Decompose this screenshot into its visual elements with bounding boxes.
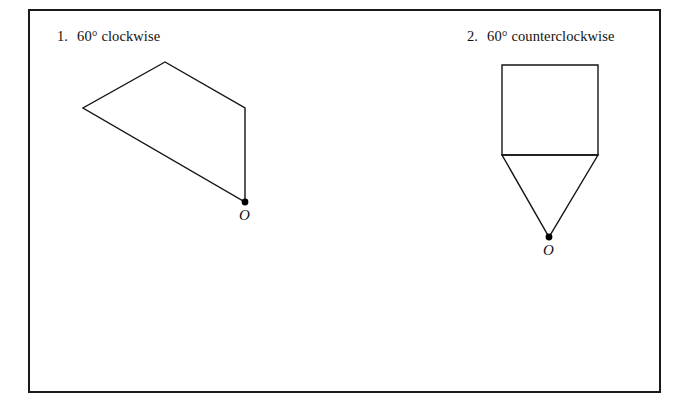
worksheet-page: 1.60° clockwise 2.60° counterclockwise O… (0, 0, 683, 420)
center-of-rotation-label-1: O (239, 208, 250, 223)
worksheet-frame (28, 9, 661, 393)
problem-1-label: 1.60° clockwise (57, 28, 160, 45)
problem-2-number: 2. (467, 28, 478, 45)
center-of-rotation-label-2: O (543, 243, 554, 258)
problem-2-instruction: 60° counterclockwise (487, 28, 614, 44)
problem-1-instruction: 60° clockwise (77, 28, 160, 44)
problem-1-number: 1. (57, 28, 68, 45)
problem-2-label: 2.60° counterclockwise (467, 28, 614, 45)
